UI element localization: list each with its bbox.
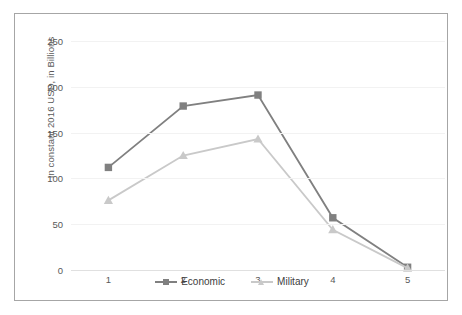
legend-swatch-square-icon [155,277,177,287]
y-tick-label: 100 [23,173,63,184]
data-point-economic-2 [180,102,187,109]
data-point-military-1 [104,196,113,204]
gridline-0 [71,270,445,271]
y-tick-label: 150 [23,127,63,138]
legend-label: Economic [181,276,225,287]
y-tick-label: 50 [23,219,63,230]
gridline-250 [71,41,445,42]
data-point-economic-1 [105,164,112,171]
y-tick-label: 200 [23,81,63,92]
series-line-economic [108,95,407,267]
gridline-200 [71,87,445,88]
gridline-150 [71,133,445,134]
data-point-economic-4 [329,214,336,221]
legend-swatch-triangle-icon [251,277,273,287]
series-line-military [108,139,407,268]
gridline-100 [71,178,445,179]
y-tick-label: 250 [23,36,63,47]
chart-legend: EconomicMilitary [15,276,449,287]
legend-entry-military[interactable]: Military [251,276,309,287]
data-point-economic-3 [254,91,261,98]
legend-entry-economic[interactable]: Economic [155,276,225,287]
gridline-50 [71,224,445,225]
chart-plot-frame: In constant 2016 USD, in Billions 050100… [14,13,448,301]
series-lines [71,41,445,270]
y-tick-label: 0 [23,265,63,276]
legend-label: Military [277,276,309,287]
plot-area: 05010015020025012345 [71,41,445,270]
chart-figure: In constant 2016 USD, in Billions 050100… [0,0,462,315]
data-point-military-3 [253,134,262,142]
